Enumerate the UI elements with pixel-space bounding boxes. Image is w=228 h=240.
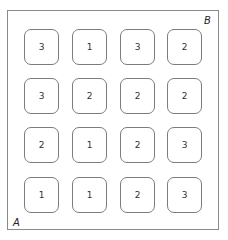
grid-cell-r4-c2: 1: [72, 177, 107, 213]
grid-cell-r4-c3: 2: [120, 177, 155, 213]
corner-label-a: A: [13, 218, 20, 228]
corner-label-b: B: [204, 16, 211, 26]
grid-cell-r2-c3: 2: [120, 78, 155, 114]
grid-cell-r3-c2: 1: [72, 127, 107, 163]
grid-cell-r1-c3: 3: [120, 29, 155, 65]
grid-cell-r4-c1: 1: [24, 177, 59, 213]
grid-cell-r3-c4: 3: [167, 127, 202, 163]
grid-cell-r2-c4: 2: [167, 78, 202, 114]
grid-cell-r3-c3: 2: [120, 127, 155, 163]
grid-cell-r4-c4: 3: [167, 177, 202, 213]
grid-cell-r1-c1: 3: [24, 29, 59, 65]
grid-cell-r2-c2: 2: [72, 78, 107, 114]
grid-cell-r1-c2: 1: [72, 29, 107, 65]
grid-cell-r1-c4: 2: [167, 29, 202, 65]
grid-cell-r2-c1: 3: [24, 78, 59, 114]
grid-cell-r3-c1: 2: [24, 127, 59, 163]
